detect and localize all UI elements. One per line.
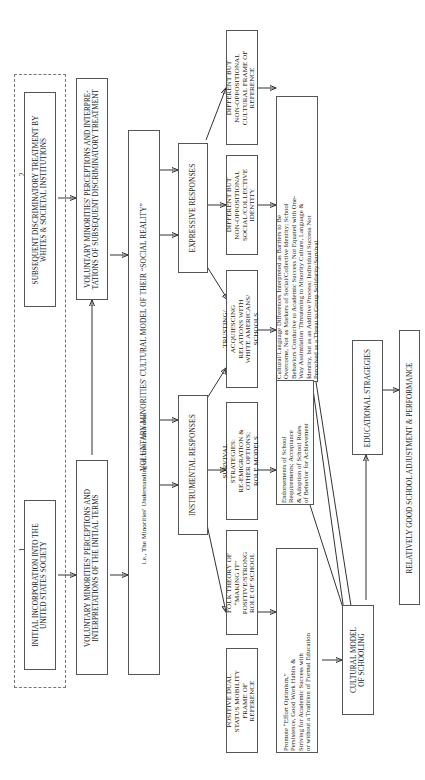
node-survival-strategies: SURVIVAL STRATEGIES: RE-EMIGRATION & OTH… (226, 402, 258, 520)
node-instrumental-responses: INSTRUMENTAL RESPONSES (178, 395, 208, 535)
node-subsequent-discriminatory-treatment: SUBSEQUENT DISCRIMINATORY TREATMENT BY W… (24, 92, 56, 307)
node-perceptions-initial-terms: VOLUNTARY MINORITIES' PERCEPTIONS AND IN… (76, 460, 108, 675)
node-perceptions-subsequent-treatment: VOLUNTARY MINORITIES' PERCEPTIONS AND IN… (76, 78, 108, 300)
node-educational-strategies: EDUCATIONAL STRAGEGIES (352, 340, 383, 455)
node-promote-effort-optimism: Promote “Effort Optimism,” Persistence, … (276, 548, 318, 753)
node-trusting-acquiescing-relations: TRUSTING/ ACQUIESCING RELATIONS WITH WHI… (226, 270, 258, 388)
node-different-cultural-frame-of-reference: DIFFERENT BUT NON-OPPOSITIONAL CULTURAL … (226, 30, 258, 145)
diagram-canvas: 1 2 (0, 0, 425, 780)
node-different-social-collective-identity: DIFFERENT BUT NON-OPPOSITIONAL SOCIAL/CO… (226, 155, 258, 255)
node-expressive-responses: EXPRESSIVE RESPONSES (178, 143, 208, 273)
node-folk-theory-making-it: FOLK THEORY OF “MAKING IT” POSITIVE/STRO… (226, 530, 258, 635)
node-endorsements-of-school-requirements: Endorsements of School Requirements; Acc… (276, 380, 314, 505)
node-cultural-model-of-schooling: CULTURAL MODEL OF SCHOOLING (342, 605, 374, 715)
node-relatively-good-school-adjustment: RELATIVELY GOOD SCHOOL ADJUSTMENT & PERF… (399, 330, 420, 605)
node-cultural-language-differences-detail: Cultural/Language Differences Interprete… (276, 96, 318, 382)
node-positive-dual-status-mobility: POSITIVE DUAL STATUS MOBILITY FRAME OF R… (226, 648, 258, 753)
node-initial-incorporation: INITIAL INCORPORATION INTO THE UNITED ST… (24, 500, 56, 670)
node-cultural-model-social-reality: VOLUNTARY MINORITIES' CULTURAL MODEL OF … (128, 130, 160, 675)
